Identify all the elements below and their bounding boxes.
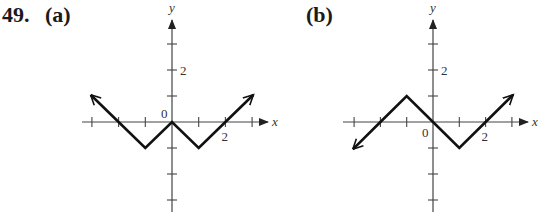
origin-label: 0 [161, 106, 168, 121]
y-tick-label: 2 [180, 63, 187, 78]
graph-a: 220xy [82, 0, 278, 212]
graphs: 220xy 220xy [0, 0, 539, 219]
graph-b: 220xy [343, 0, 538, 212]
x-axis-label: x [531, 114, 538, 129]
x-axis-label: x [271, 114, 278, 129]
x-tick-label: 2 [221, 129, 228, 144]
x-tick-label: 2 [482, 129, 489, 144]
y-axis-label: y [167, 0, 175, 15]
y-axis-label: y [428, 0, 436, 15]
origin-label: 0 [422, 125, 429, 140]
y-tick-label: 2 [441, 63, 448, 78]
